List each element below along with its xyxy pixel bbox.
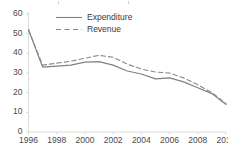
- legend-label-revenue: Revenue: [87, 25, 121, 34]
- x-tick-1998: 1998: [42, 136, 72, 145]
- x-tick-2006: 2006: [155, 136, 185, 145]
- y-tick-30: 30: [3, 68, 23, 77]
- chart-legend: Expenditure Revenue: [56, 12, 132, 34]
- y-tick-40: 40: [3, 48, 23, 57]
- x-tick-2002: 2002: [98, 136, 128, 145]
- x-tick-2010: 2010: [211, 136, 228, 145]
- y-tick-50: 50: [3, 29, 23, 38]
- x-tick-2008: 2008: [183, 136, 213, 145]
- y-tick-20: 20: [3, 88, 23, 97]
- legend-item-revenue: Revenue: [56, 24, 132, 34]
- series-line-revenue: [29, 30, 227, 104]
- legend-line-solid-icon: [56, 13, 82, 22]
- series-line-expenditure: [29, 30, 227, 105]
- x-tick-2004: 2004: [126, 136, 156, 145]
- legend-item-expenditure: Expenditure: [56, 12, 132, 22]
- y-tick-60: 60: [3, 9, 23, 18]
- legend-label-expenditure: Expenditure: [87, 13, 132, 22]
- line-chart: 0102030405060 19961998200020022004200620…: [0, 0, 228, 154]
- legend-line-dashed-icon: [56, 25, 82, 34]
- x-tick-1996: 1996: [14, 136, 44, 145]
- y-tick-10: 10: [3, 107, 23, 116]
- x-tick-2000: 2000: [70, 136, 100, 145]
